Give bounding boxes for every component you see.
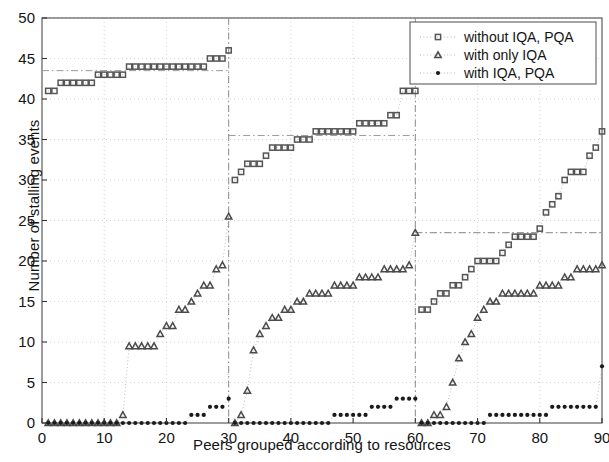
data-point — [295, 421, 299, 425]
y-tick-label: 50 — [18, 9, 35, 26]
data-point — [407, 397, 411, 401]
data-point — [139, 64, 144, 69]
legend-marker-dot — [436, 71, 440, 75]
data-point — [239, 421, 243, 425]
data-point — [481, 258, 486, 263]
data-point — [344, 129, 349, 134]
data-point — [96, 421, 100, 425]
data-point — [451, 421, 455, 425]
data-point — [600, 364, 604, 368]
data-point — [201, 282, 207, 288]
data-point — [258, 421, 262, 425]
data-point — [469, 421, 473, 425]
data-point — [362, 274, 368, 280]
data-point — [65, 421, 69, 425]
data-point — [426, 421, 430, 425]
data-point — [381, 266, 387, 272]
data-point — [525, 413, 529, 417]
y-tick-label: 45 — [18, 50, 35, 67]
data-point — [438, 421, 442, 425]
data-point — [132, 343, 138, 349]
data-point — [189, 413, 193, 417]
data-point — [59, 421, 63, 425]
data-point — [574, 266, 580, 272]
data-point — [183, 421, 187, 425]
data-point — [332, 129, 337, 134]
data-point — [456, 355, 462, 361]
data-point — [71, 421, 75, 425]
data-point — [52, 421, 56, 425]
data-point — [276, 421, 280, 425]
data-point — [500, 413, 504, 417]
data-point — [263, 323, 269, 329]
data-point — [387, 266, 393, 272]
data-point — [543, 210, 548, 215]
series-connector — [48, 216, 229, 423]
data-point — [281, 306, 287, 312]
data-point — [493, 298, 499, 304]
data-point — [376, 405, 380, 409]
data-point — [52, 88, 57, 93]
data-point — [563, 405, 567, 409]
series-connector — [235, 233, 415, 423]
data-point — [326, 421, 330, 425]
stalling-events-chart: 051015202530354045500102030405060708090w… — [0, 0, 609, 462]
series-connector — [422, 265, 602, 423]
data-point — [269, 315, 275, 321]
y-tick-label: 5 — [27, 374, 35, 391]
data-point — [357, 413, 361, 417]
data-point — [593, 266, 599, 272]
data-point — [375, 121, 380, 126]
data-point — [345, 413, 349, 417]
data-point — [363, 413, 367, 417]
data-point — [443, 404, 449, 410]
data-point — [337, 282, 343, 288]
data-point — [432, 421, 436, 425]
data-point — [543, 282, 549, 288]
data-point — [370, 405, 374, 409]
data-point — [275, 315, 281, 321]
data-point — [594, 405, 598, 409]
data-point — [530, 290, 536, 296]
data-point — [263, 153, 268, 158]
data-point — [581, 169, 586, 174]
data-point — [245, 421, 249, 425]
data-point — [587, 405, 591, 409]
data-point — [401, 397, 405, 401]
data-point — [195, 64, 200, 69]
data-point — [127, 64, 132, 69]
data-point — [301, 421, 305, 425]
data-point — [207, 282, 213, 288]
data-point — [463, 421, 467, 425]
data-point — [513, 413, 517, 417]
data-point — [481, 306, 487, 312]
data-point — [556, 405, 560, 409]
legend-label: with only IQA — [463, 47, 547, 63]
data-point — [157, 331, 163, 337]
data-point — [394, 113, 399, 118]
data-point — [544, 413, 548, 417]
data-point — [593, 145, 598, 150]
data-point — [531, 413, 535, 417]
data-point — [251, 161, 256, 166]
series-square — [46, 48, 605, 312]
data-point — [188, 298, 194, 304]
data-point — [488, 413, 492, 417]
data-point — [320, 421, 324, 425]
data-point — [307, 421, 311, 425]
data-point — [244, 387, 250, 393]
data-point — [457, 421, 461, 425]
data-point — [550, 202, 555, 207]
data-point — [331, 282, 337, 288]
data-point — [176, 306, 182, 312]
data-point — [146, 421, 150, 425]
data-point — [257, 331, 263, 337]
data-point — [152, 421, 156, 425]
data-point — [468, 331, 474, 337]
data-point — [194, 290, 200, 296]
data-point — [77, 80, 82, 85]
data-point — [214, 405, 218, 409]
data-point — [550, 405, 554, 409]
data-point — [126, 343, 132, 349]
data-point — [108, 421, 112, 425]
